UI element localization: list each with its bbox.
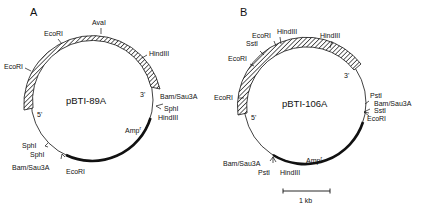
plasmid-b-name: pBTI-106A [282, 98, 328, 109]
site-a-ecori-2: EcoRI [44, 30, 63, 37]
site-b-ecori-1: EcoRI [252, 32, 271, 39]
site-a-hind-2: HindIII [158, 114, 178, 121]
site-a-hind: HindIII [149, 50, 169, 57]
panel-a: A pBTI-89A 5' 3' EcoRI EcoRI AvaI HindII… [4, 6, 198, 175]
site-b-pst-2: PstI [258, 169, 270, 176]
amp-a: Ampr [125, 125, 141, 135]
site-b-hind-3: HindIII [280, 169, 300, 176]
site-b-bam-2: Bam/Sau3A [223, 160, 261, 167]
three-prime-a: 3' [140, 91, 145, 98]
site-a-ecori-3: EcoRI [66, 168, 85, 175]
site-a-ava: AvaI [92, 19, 106, 26]
site-b-ecori-4: EcoRI [367, 115, 386, 122]
five-prime-a: 5' [37, 111, 42, 118]
site-a-ecori-1: EcoRI [4, 63, 23, 70]
site-a-sph-3: SphI [30, 151, 44, 159]
panel-a-letter: A [30, 6, 38, 18]
site-a-sph: SphI [164, 105, 178, 113]
panel-b-letter: B [240, 6, 247, 18]
plasmid-a-amp-region [66, 118, 151, 161]
site-b-hind-1: HindIII [277, 28, 297, 35]
site-a-sph-2: SphI [22, 142, 36, 150]
scale-bar: 1 kb [283, 189, 330, 205]
amp-b: Ampr [306, 155, 322, 165]
site-b-pst-1: PstI [370, 92, 382, 99]
site-b-sst-2: SstI [374, 107, 386, 114]
site-b-hind-2: HindIII [320, 32, 340, 39]
plasmid-a-name: pBTI-89A [66, 95, 107, 106]
site-a-bam: Bam/Sau3A [160, 93, 198, 100]
site-b-sst-1: SstI [246, 40, 258, 47]
five-prime-b: 5' [251, 114, 256, 121]
scale-bar-label: 1 kb [299, 197, 312, 204]
site-b-bam-1: Bam/Sau3A [374, 100, 412, 107]
site-a-bam-2: Bam/Sau3A [12, 164, 50, 171]
three-prime-b: 3' [344, 72, 349, 79]
site-b-ecori-2: EcoRI [228, 55, 247, 62]
site-b-ecori-3: EcoRI [214, 94, 233, 101]
plasmid-map-figure: A pBTI-89A 5' 3' EcoRI EcoRI AvaI HindII… [0, 0, 426, 209]
panel-b: B pBTI-106A 5' 3' EcoRI HindIII HindIII … [214, 6, 412, 204]
